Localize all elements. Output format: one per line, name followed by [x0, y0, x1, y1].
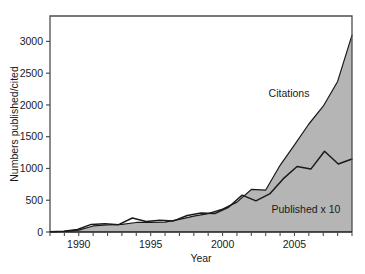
published-series-label: Published x 10: [271, 203, 340, 215]
y-tick-label: 3000: [20, 35, 44, 47]
x-axis-title: Year: [190, 252, 212, 264]
y-axis-title: Numbers published/cited: [8, 66, 20, 182]
x-tick-label: 2005: [283, 238, 307, 250]
x-tick-label: 1990: [67, 238, 91, 250]
y-tick-label: 2500: [20, 67, 44, 79]
y-tick-label: 1500: [20, 130, 44, 142]
y-tick-label: 2000: [20, 99, 44, 111]
x-tick-label: 1995: [139, 238, 163, 250]
x-axis-tick-labels: 1990199520002005: [67, 238, 306, 250]
y-axis-ticks: 050010001500200025003000: [20, 35, 50, 238]
y-tick-label: 0: [37, 226, 43, 238]
x-tick-label: 2000: [211, 238, 235, 250]
y-tick-label: 1000: [20, 162, 44, 174]
chart-figure: 050010001500200025003000 199019952000200…: [0, 0, 365, 274]
y-tick-label: 500: [25, 194, 43, 206]
citations-series-label: Citations: [269, 87, 310, 99]
citations-published-area-chart: 050010001500200025003000 199019952000200…: [0, 0, 365, 274]
